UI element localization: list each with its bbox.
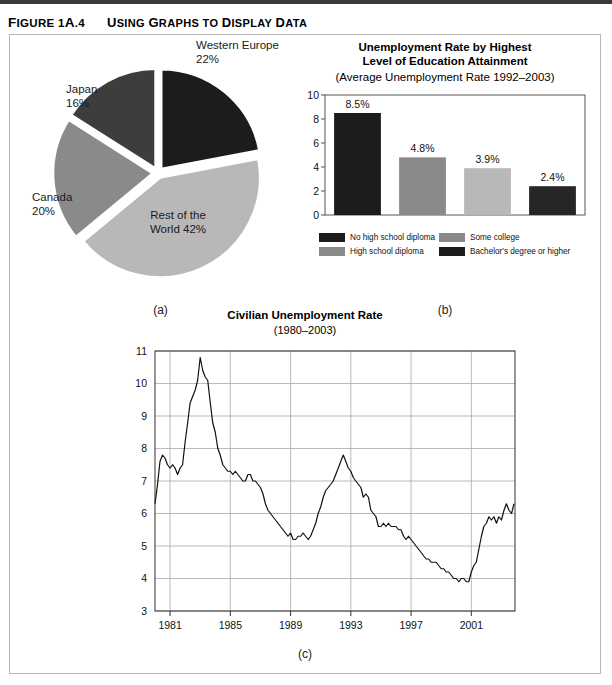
- line-y-tick-label: 3: [141, 605, 147, 617]
- bar-y-tick-label: 6: [313, 137, 319, 149]
- line-x-tick-label: 1989: [279, 619, 303, 631]
- legend-item: High school diploma: [319, 247, 439, 256]
- line-y-tick-label: 5: [141, 540, 147, 552]
- line-chart-subtitle: (1980–2003): [15, 324, 595, 336]
- legend-item: Bachelor's degree or higher: [439, 247, 589, 256]
- bar-y-tick-label: 0: [313, 209, 319, 221]
- figure-title: USING GRAPHS TO DISPLAY DATA: [107, 15, 307, 30]
- figure-header: FIGURE 1A.4 USING GRAPHS TO DISPLAY DATA: [8, 12, 604, 32]
- bar-value-label: 2.4%: [541, 171, 565, 183]
- line-series: [155, 358, 514, 582]
- legend-swatch: [439, 247, 465, 256]
- line-svg: 34567891011198119851989199319972001: [15, 339, 595, 639]
- bar-value-label: 3.9%: [476, 153, 500, 165]
- legend-swatch: [319, 233, 345, 242]
- pie-slice: [161, 69, 259, 169]
- legend-item: Some college: [439, 233, 589, 242]
- line-y-tick-label: 11: [136, 345, 147, 357]
- bar-chart-b: Unemployment Rate by Highest Level of Ed…: [295, 37, 595, 297]
- line-y-tick-label: 7: [141, 475, 147, 487]
- line-x-tick-label: 1981: [158, 619, 182, 631]
- pie-slice-label: Western Europe22%: [196, 41, 279, 65]
- pie-chart-a: Western Europe22%Rest of theWorld 42%Can…: [28, 41, 293, 306]
- legend-label: High school diploma: [350, 247, 424, 256]
- legend-label: Bachelor's degree or higher: [470, 247, 570, 256]
- pie-svg: Western Europe22%Rest of theWorld 42%Can…: [28, 41, 293, 306]
- figure-panel: Western Europe22%Rest of theWorld 42%Can…: [9, 34, 601, 674]
- bar: [464, 168, 511, 215]
- bar: [399, 157, 446, 215]
- top-rule: [0, 0, 612, 4]
- legend-label: No high school diploma: [350, 233, 435, 242]
- legend-label: Some college: [470, 233, 520, 242]
- line-y-tick-label: 4: [141, 572, 147, 584]
- line-x-tick-label: 2001: [460, 619, 484, 631]
- bar: [529, 186, 576, 215]
- bar-y-tick-label: 4: [313, 161, 319, 173]
- panel-c-caption: (c): [15, 647, 595, 661]
- bar: [334, 113, 381, 215]
- figure-number: FIGURE 1A.4: [8, 15, 85, 30]
- bar-y-tick-label: 2: [313, 185, 319, 197]
- pie-slice-label: Rest of theWorld 42%: [150, 209, 206, 235]
- bar-chart-title: Unemployment Rate by Highest Level of Ed…: [295, 41, 595, 68]
- line-y-tick-label: 6: [141, 507, 147, 519]
- legend-swatch: [319, 247, 345, 256]
- line-y-tick-label: 9: [141, 410, 147, 422]
- bar-y-tick-label: 8: [313, 113, 319, 125]
- bar-chart-subtitle: (Average Unemployment Rate 1992–2003): [295, 71, 595, 83]
- bar-chart-legend: No high school diplomaSome collegeHigh s…: [319, 233, 599, 256]
- line-x-tick-label: 1985: [219, 619, 243, 631]
- legend-item: No high school diploma: [319, 233, 439, 242]
- line-chart-title: Civilian Unemployment Rate: [15, 309, 595, 321]
- bar-value-label: 8.5%: [346, 98, 370, 110]
- line-x-tick-label: 1997: [399, 619, 423, 631]
- line-x-tick-label: 1993: [339, 619, 363, 631]
- line-y-tick-label: 8: [141, 442, 147, 454]
- legend-swatch: [439, 233, 465, 242]
- bar-value-label: 4.8%: [411, 142, 435, 154]
- line-chart-c: Civilian Unemployment Rate (1980–2003) 3…: [15, 307, 595, 669]
- bar-svg: 02468108.5%4.8%3.9%2.4%: [295, 87, 595, 237]
- line-y-tick-label: 10: [135, 377, 147, 389]
- bar-y-tick-label: 10: [307, 89, 319, 101]
